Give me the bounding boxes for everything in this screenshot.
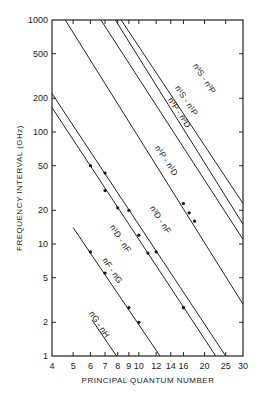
axis-ticks: [52, 20, 243, 356]
y-tick-label: 10: [38, 239, 48, 249]
x-tick-label: 16: [178, 361, 188, 371]
data-point: [193, 220, 196, 223]
series-line-n1s-n1p: [115, 20, 243, 224]
x-tick-label: 7: [103, 361, 108, 371]
x-tick-label: 4: [49, 361, 54, 371]
x-tick-label: 30: [238, 361, 248, 371]
x-tick-label: 20: [200, 361, 210, 371]
x-tick-label: 9: [126, 361, 131, 371]
y-tick-label: 1: [43, 351, 48, 361]
y-tick-label: 50: [38, 161, 48, 171]
y-tick-label: 20: [38, 205, 48, 215]
data-point: [89, 164, 92, 167]
data-point: [116, 206, 119, 209]
data-point: [127, 306, 130, 309]
series-label-n3s-n3p: n³S - n³P: [191, 61, 218, 95]
data-point: [155, 250, 158, 253]
data-point: [137, 234, 140, 237]
series-label-ng-nh: nG - nH: [87, 309, 112, 339]
x-tick-label: 12: [151, 361, 161, 371]
y-tick-label: 5: [43, 273, 48, 283]
series-label-n1p-n1d: n¹P - n¹D: [153, 143, 180, 177]
y-tick-label: 1000: [28, 15, 48, 25]
series-label-n3d-nf: n³D - nF: [148, 204, 173, 236]
data-point: [146, 251, 149, 254]
data-point: [103, 171, 106, 174]
data-point: [127, 209, 130, 212]
data-point: [89, 250, 92, 253]
y-tick-labels: 1251020501002005001000: [28, 15, 48, 361]
data-point: [137, 321, 140, 324]
y-tick-label: 500: [33, 49, 48, 59]
data-point: [182, 306, 185, 309]
y-axis-title: FREQUENCY INTERVAL (GHz): [15, 125, 24, 251]
x-axis-title: PRINCIPAL QUANTUM NUMBER: [82, 376, 215, 385]
series-label-nf-ng: nF - nG: [100, 256, 124, 286]
series-line-nf-ng: [73, 228, 160, 356]
x-tick-label: 10: [134, 361, 144, 371]
data-point: [103, 189, 106, 192]
series-line-n3p-n3d: [101, 20, 243, 239]
x-tick-label: 25: [221, 361, 231, 371]
x-tick-label: 14: [166, 361, 176, 371]
series-line-n1p-n1d: [65, 20, 243, 304]
log-log-chart: 45678910121416202530 1251020501002005001…: [0, 0, 259, 395]
series-line-n3d-nf: [52, 94, 226, 356]
series-label-n1d-nf: n¹D - nF: [108, 223, 133, 255]
y-tick-label: 100: [33, 127, 48, 137]
series-lines: [52, 20, 243, 356]
data-point: [103, 271, 106, 274]
x-tick-label: 8: [115, 361, 120, 371]
x-tick-labels: 45678910121416202530: [49, 361, 248, 371]
plot-frame: [52, 20, 243, 356]
data-point: [182, 202, 185, 205]
y-tick-label: 2: [43, 317, 48, 327]
x-tick-label: 6: [88, 361, 93, 371]
y-tick-label: 200: [33, 93, 48, 103]
data-point: [188, 211, 191, 214]
x-tick-label: 5: [71, 361, 76, 371]
